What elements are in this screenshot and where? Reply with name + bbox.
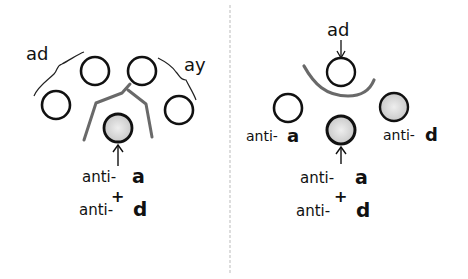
label-anti-a-letter-right: a <box>355 166 368 188</box>
circle-upper-right <box>128 57 156 85</box>
label-anti-a-prefix: anti- <box>82 168 116 186</box>
label-ad: ad <box>26 43 48 64</box>
left-panel: ad ay anti- a + anti- d <box>26 43 206 221</box>
label-right-anti-letter: d <box>425 124 438 145</box>
label-left-anti-letter: a <box>287 125 299 146</box>
diagram-canvas: ad ay anti- a + anti- d ad anti- a anti-… <box>0 0 468 279</box>
circle-center-target <box>104 114 132 142</box>
label-ay: ay <box>184 54 206 75</box>
label-ad-top: ad <box>327 19 349 40</box>
circle-outer-right <box>165 96 193 124</box>
circle-center-target <box>327 116 355 144</box>
circle-outer-left <box>42 91 70 119</box>
label-anti-d-letter: d <box>133 197 147 221</box>
circle-upper-left <box>81 57 109 85</box>
label-left-anti-prefix: anti- <box>246 128 278 144</box>
label-anti-a-prefix-right: anti- <box>300 169 334 187</box>
label-plus-right: + <box>334 187 347 206</box>
circle-left-anti-a <box>274 94 302 122</box>
label-right-anti-prefix: anti- <box>383 127 415 143</box>
label-anti-a-letter: a <box>132 165 145 187</box>
label-anti-d-prefix-right: anti- <box>296 202 330 220</box>
circle-top-ad <box>327 58 355 86</box>
circle-right-anti-d <box>380 93 408 121</box>
label-anti-d-prefix: anti- <box>79 201 113 219</box>
label-anti-d-letter-right: d <box>356 198 370 222</box>
right-panel: ad anti- a anti- d anti- a + anti- d <box>246 19 438 222</box>
